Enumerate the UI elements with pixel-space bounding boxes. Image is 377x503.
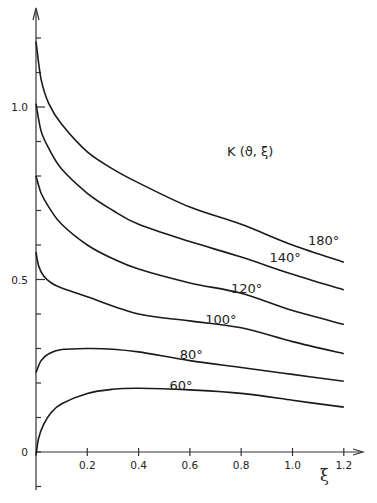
curve-label-120deg: 120°	[231, 281, 262, 296]
x-tick-label: 1.2	[335, 459, 352, 471]
chart: 00.51.00.20.40.60.81.01.2 180°140°120°10…	[0, 0, 377, 503]
x-tick-label: 0.6	[182, 459, 199, 471]
x-tick-label: 0.2	[79, 459, 96, 471]
curve-100deg	[36, 252, 344, 354]
y-tick-label: 1.0	[11, 101, 28, 113]
curve-180deg	[36, 42, 344, 263]
y-tick-label: 0.5	[11, 274, 28, 286]
axes: 00.51.00.20.40.60.81.01.2	[11, 8, 363, 490]
x-tick-label: 0.4	[130, 459, 147, 471]
x-tick-label: 1.0	[284, 459, 301, 471]
curve-label-100deg: 100°	[205, 312, 236, 327]
x-axis-label: ξ	[320, 466, 329, 485]
curve-label-140deg: 140°	[269, 250, 300, 265]
curve-label-80deg: 80°	[180, 347, 203, 362]
chart-title: K (ϑ, ξ)	[227, 144, 273, 159]
curves	[36, 42, 344, 456]
x-tick-label: 0.8	[233, 459, 250, 471]
y-tick-label: 0	[21, 446, 28, 458]
curve-label-60deg: 60°	[169, 378, 192, 393]
curve-label-180deg: 180°	[308, 233, 339, 248]
curve-60deg	[36, 388, 344, 455]
